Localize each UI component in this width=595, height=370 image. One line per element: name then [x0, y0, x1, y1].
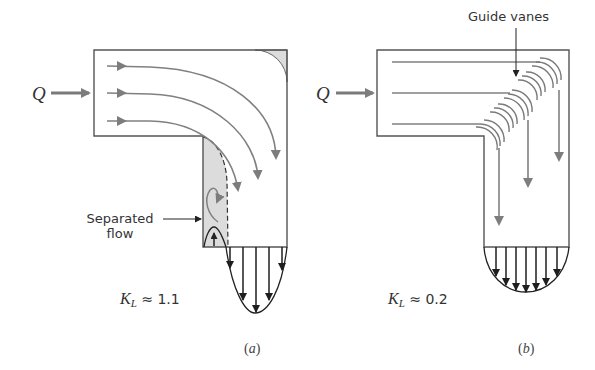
panel-b: [336, 28, 569, 292]
separated-flow-label: Separated flow: [80, 212, 160, 240]
kl-subscript-a: L: [131, 297, 137, 309]
guide-vanes: [476, 58, 561, 150]
streamlines-b: [392, 62, 559, 224]
streamlines-a: [107, 66, 276, 190]
separated-flow-line1: Separated: [80, 212, 160, 225]
velocity-vectors-a: [230, 247, 282, 312]
inlet-label-a: Q: [32, 84, 46, 103]
streamline-arrowheads-a: [117, 61, 127, 126]
caption-b-letter: b: [523, 341, 530, 356]
outer-corner-dead-zone: [255, 50, 287, 82]
separation-region: [203, 136, 228, 247]
kl-approx-b: ≈: [409, 291, 421, 307]
pipe-outline-b: [377, 50, 569, 247]
separated-flow-line2: flow: [80, 227, 160, 240]
kl-approx-a: ≈: [141, 291, 153, 307]
caption-b: (b): [518, 342, 534, 356]
inlet-label-b: Q: [316, 84, 330, 103]
kl-symbol-a: K: [120, 290, 131, 307]
kl-value-b: 0.2: [425, 291, 447, 307]
panel-a: [51, 50, 287, 313]
kl-symbol-b: K: [388, 290, 399, 307]
caption-a-letter: a: [249, 341, 256, 356]
loss-coefficient-b: KL ≈ 0.2: [388, 291, 448, 309]
loss-coefficient-a: KL ≈ 1.1: [120, 291, 180, 309]
kl-value-a: 1.1: [157, 291, 179, 307]
pipe-bend-diagram: [0, 0, 595, 370]
guide-vanes-label: Guide vanes: [468, 10, 549, 23]
kl-subscript-b: L: [399, 297, 405, 309]
caption-a: (a): [244, 342, 260, 356]
